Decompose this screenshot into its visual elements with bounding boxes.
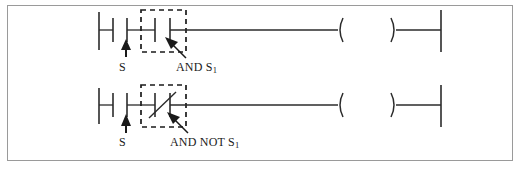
label-and-not-s1-text: AND NOT S <box>170 135 235 149</box>
label-and-s1: AND S1 <box>176 60 217 75</box>
output-coil <box>340 18 394 42</box>
ladder-diagram-canvas <box>0 0 522 170</box>
arrow-to-contact-s1-bottom <box>167 112 188 133</box>
arrow-up-to-contact-s-bottom <box>121 114 131 133</box>
ladder-diagram-figure: S AND S1 S AND NOT S1 <box>0 0 522 170</box>
highlight-box-and-s1 <box>141 10 186 52</box>
contact-no-s <box>113 18 127 42</box>
rung-top <box>99 10 441 58</box>
highlight-box-and-not-s1 <box>141 85 186 127</box>
label-s-bottom: S <box>119 135 126 150</box>
arrow-up-to-contact-s-top <box>121 39 131 57</box>
label-and-s1-subscript: 1 <box>213 65 217 75</box>
arrow-to-contact-s1-top <box>165 37 186 58</box>
label-s-top: S <box>119 60 126 75</box>
contact-no-s <box>113 93 127 117</box>
rung-bottom <box>99 85 441 133</box>
label-and-not-s1-subscript: 1 <box>235 140 239 150</box>
label-and-s1-text: AND S <box>176 60 213 74</box>
output-coil <box>340 93 394 117</box>
label-and-not-s1: AND NOT S1 <box>170 135 239 150</box>
